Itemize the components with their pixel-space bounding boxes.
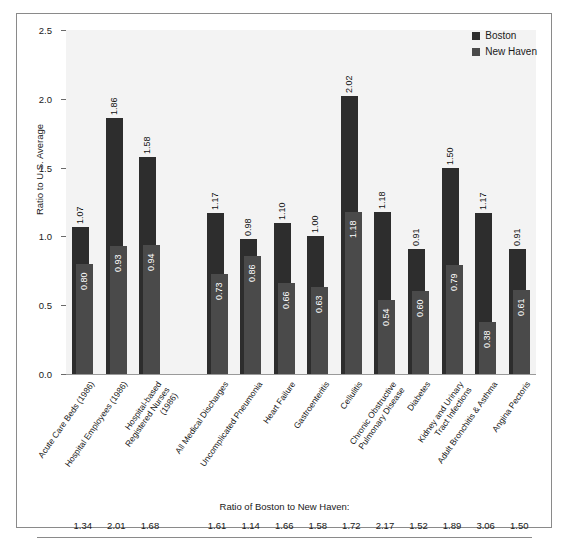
ratio-panel: Ratio of Boston to New Haven: 1.342.011.… [37,501,532,541]
x-axis-tick-label: Hospital Employees (1986) [64,380,131,469]
bar-value-boston: 2.02 [344,76,354,94]
bar-value-new-haven: 0.63 [314,296,324,314]
bar-group: 0.910.60 [408,30,429,374]
ratio-value: 1.58 [303,520,333,531]
bar-group: 1.170.38 [475,30,496,374]
plot-area: 1.070.801.860.931.580.941.170.730.980.86… [66,30,536,374]
bar-group: 0.910.61 [509,30,530,374]
bar-group: 1.860.93 [106,30,127,374]
x-axis-tick-label: Cellulitis [339,380,365,412]
y-axis-tick-label: 2.0 [24,93,52,104]
chart-legend: BostonNew Haven [472,30,537,62]
bar-value-new-haven: 0.79 [449,274,459,292]
bar-group: 1.580.94 [139,30,160,374]
y-axis-tick-label: 2.5 [24,25,52,36]
bar-group: 1.100.66 [274,30,295,374]
bar-value-boston: 1.58 [142,136,152,154]
bar-group: 0.980.86 [240,30,261,374]
bar-group: 2.021.18 [341,30,362,374]
x-axis-tick-label: Diabetes [405,380,432,413]
ratio-value: 2.17 [370,520,400,531]
legend-item-label: Boston [485,30,516,41]
legend-item-label: New Haven [485,46,537,57]
ratio-value: 1.50 [504,520,534,531]
bar-value-boston: 1.17 [478,192,488,210]
ratio-value: 1.66 [269,520,299,531]
bar-value-boston: 1.50 [445,147,455,165]
bar-group: 1.000.63 [307,30,328,374]
bar-group: 1.180.54 [374,30,395,374]
bar-value-new-haven: 0.80 [79,272,89,290]
bar-value-new-haven: 0.61 [516,299,526,317]
x-axis-tick-label: Uncomplicated Pneumonia [198,380,264,469]
bar-value-boston: 1.07 [75,206,85,224]
bar-value-new-haven: 0.54 [381,308,391,326]
x-axis-tick-label: Acute Care Beds (1986) [36,380,96,460]
ratio-value: 2.01 [101,520,131,531]
ratio-value: 1.89 [437,520,467,531]
y-axis-tick-label: 0.5 [24,300,52,311]
bar-value-boston: 0.98 [243,219,253,237]
bar-value-new-haven: 0.66 [281,292,291,310]
ratio-value: 3.06 [471,520,501,531]
ratio-value: 1.52 [404,520,434,531]
bar-value-new-haven: 0.86 [247,264,257,282]
bar-value-new-haven: 0.60 [415,300,425,318]
bar-value-boston: 1.18 [377,191,387,209]
bar-value-new-haven: 0.38 [482,330,492,348]
bar-value-new-haven: 1.18 [348,220,358,238]
bar-value-boston: 1.00 [310,216,320,234]
ratio-divider [37,537,532,538]
ratio-row-title: Ratio of Boston to New Haven: [37,501,532,512]
bar-value-boston: 1.17 [210,192,220,210]
bar-group: 1.170.73 [207,30,228,374]
ratio-value: 1.61 [202,520,232,531]
bar-value-boston: 1.10 [277,202,287,220]
bar-value-boston: 0.91 [411,228,421,246]
bar-group: 1.070.80 [72,30,93,374]
legend-swatch-icon [472,32,480,40]
legend-swatch-icon [472,48,480,56]
figure-frame: 0.00.51.01.52.02.5 Ratio to U.S. Average… [16,13,552,528]
bar-value-new-haven: 0.73 [214,282,224,300]
y-axis-tick-label: 1.0 [24,231,52,242]
ratio-value: 1.72 [336,520,366,531]
ratio-value: 1.14 [236,520,266,531]
y-axis-title: Ratio to U.S. Average [34,110,45,230]
x-axis-tick-label: Heart Failure [262,380,298,426]
ratio-value: 1.34 [68,520,98,531]
x-axis-labels: Acute Care Beds (1986)Hospital Employees… [66,376,536,496]
bar-value-boston: 0.91 [512,228,522,246]
x-axis-tick-label: Gastroenteritis [292,380,332,431]
bar-group: 1.500.79 [442,30,463,374]
y-axis-tick-label: 0.0 [24,369,52,380]
legend-item-new-haven: New Haven [472,46,537,57]
ratio-value: 1.68 [135,520,165,531]
bar-value-boston: 1.86 [109,98,119,116]
bar-value-new-haven: 0.94 [146,253,156,271]
bar-value-new-haven: 0.93 [113,255,123,273]
legend-item-boston: Boston [472,30,537,41]
x-axis-line [66,374,536,375]
